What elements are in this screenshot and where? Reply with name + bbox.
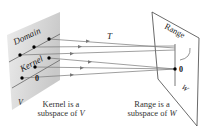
zero-right-label: 0 bbox=[179, 65, 183, 74]
kernel-caption-line2: subspace of V bbox=[26, 109, 96, 118]
t-label: T bbox=[107, 31, 113, 41]
kernel-caption-var: V bbox=[79, 108, 84, 118]
range-caption-line2: subspace of W bbox=[117, 109, 187, 118]
zero-left-label: 0 bbox=[35, 74, 39, 83]
range-caption-prefix: subspace of bbox=[127, 108, 169, 118]
kernel-caption: Kernel is a subspace of V bbox=[26, 100, 96, 118]
arrowheads bbox=[70, 40, 92, 77]
range-caption-var: W bbox=[169, 108, 176, 118]
range-caption: Range is a subspace of W bbox=[117, 100, 187, 118]
kernel-caption-prefix: subspace of bbox=[37, 108, 79, 118]
